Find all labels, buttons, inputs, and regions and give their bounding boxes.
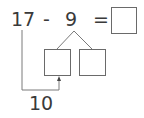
subtrahend: 9 (65, 10, 77, 29)
equals-sign: = (93, 10, 109, 29)
split-right-box[interactable] (79, 49, 106, 76)
minus-sign: - (43, 10, 50, 29)
intermediate-value: 10 (29, 94, 53, 113)
minuend: 17 (11, 10, 35, 29)
answer-box[interactable] (111, 7, 137, 34)
arrow-up-icon (57, 76, 61, 81)
split-left-box[interactable] (44, 49, 71, 76)
